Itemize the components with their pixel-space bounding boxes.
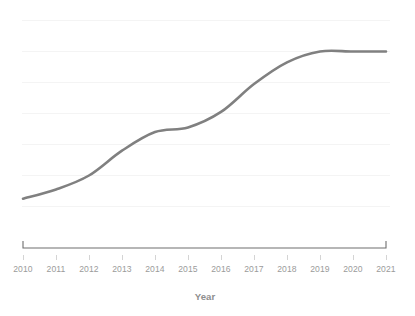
x-axis-tick-marks bbox=[23, 255, 386, 260]
x-axis-tick-label: 2017 bbox=[244, 264, 264, 274]
x-axis-tick-label: 2016 bbox=[211, 264, 231, 274]
x-axis-tick-labels: 2010201120122013201420152016201720182019… bbox=[13, 264, 396, 274]
x-axis-tick-label: 2015 bbox=[178, 264, 198, 274]
x-axis-tick-label: 2012 bbox=[79, 264, 99, 274]
x-axis-title: Year bbox=[195, 291, 216, 302]
x-axis: 2010201120122013201420152016201720182019… bbox=[13, 241, 396, 302]
x-axis-line bbox=[23, 241, 386, 248]
x-axis-tick-label: 2010 bbox=[13, 264, 33, 274]
line-chart: 2010201120122013201420152016201720182019… bbox=[0, 0, 415, 316]
x-axis-tick-label: 2019 bbox=[310, 264, 330, 274]
series-line-1 bbox=[23, 51, 386, 199]
gridlines bbox=[22, 21, 390, 207]
x-axis-tick-label: 2013 bbox=[112, 264, 132, 274]
x-axis-tick-label: 2018 bbox=[277, 264, 297, 274]
x-axis-tick-label: 2011 bbox=[47, 264, 66, 274]
x-axis-tick-label: 2020 bbox=[343, 264, 363, 274]
series-group bbox=[23, 51, 386, 199]
chart-screenshot: 2010201120122013201420152016201720182019… bbox=[0, 0, 415, 316]
x-axis-tick-label: 2014 bbox=[145, 264, 165, 274]
x-axis-tick-label: 2021 bbox=[376, 264, 396, 274]
